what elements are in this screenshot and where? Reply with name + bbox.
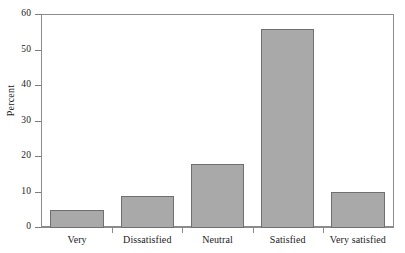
bar-slot: [42, 15, 112, 228]
x-axis-tick-mark: [182, 228, 183, 233]
x-axis-category-label: Satisfied: [253, 234, 323, 245]
bar-slot: [112, 15, 182, 228]
x-axis-tick-mark: [323, 228, 324, 233]
bar-slot: [253, 15, 323, 228]
bar[interactable]: [261, 29, 314, 229]
y-axis-tick-label: 10: [0, 186, 31, 196]
x-axis-tick-mark: [253, 228, 254, 233]
x-axis-category-label: Neutral: [182, 234, 252, 245]
y-axis-tick-label: 50: [0, 44, 31, 54]
x-axis-category-label: Very satisfied: [323, 234, 393, 245]
bar[interactable]: [50, 210, 103, 228]
bar[interactable]: [191, 164, 244, 228]
y-axis-title: Percent: [5, 65, 16, 137]
y-axis-tick-label: 40: [0, 79, 31, 89]
bar-slot: [182, 15, 252, 228]
x-axis-category-label: Very: [42, 234, 112, 245]
x-axis-tick-mark: [112, 228, 113, 233]
y-axis-tick-label: 30: [0, 115, 31, 125]
y-axis-tick-label: 60: [0, 8, 31, 18]
bar[interactable]: [121, 196, 174, 228]
y-axis-tick-label: 20: [0, 150, 31, 160]
x-axis-category-label: Dissatisfied: [112, 234, 182, 245]
bar-chart-figure: Percent 0102030405060 VeryDissatisfiedNe…: [0, 0, 405, 253]
y-axis-tick-label: 0: [0, 221, 31, 231]
bar-slot: [323, 15, 393, 228]
bar[interactable]: [331, 192, 384, 228]
bars-layer: [42, 15, 393, 228]
